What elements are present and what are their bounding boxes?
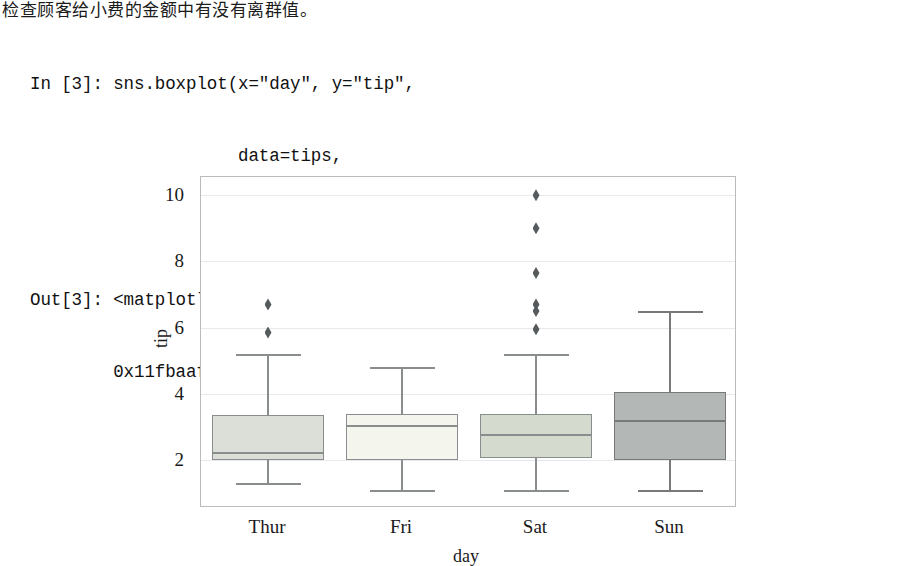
y-tick-label: 2 [144, 450, 184, 469]
boxplot-figure: tip day 246810ThurFriSatSun [192, 176, 740, 566]
outlier-point [533, 267, 540, 279]
whisker-cap [236, 483, 301, 485]
box-sun [614, 392, 726, 460]
whisker-stem [669, 311, 671, 392]
median-line-sat [480, 434, 592, 436]
code-line: data=tips, [30, 144, 914, 168]
whisker-stem [535, 458, 537, 489]
x-tick-label-sun: Sun [609, 516, 729, 538]
outlier-point [533, 189, 540, 201]
whisker-stem [267, 354, 269, 415]
median-line-sun [614, 420, 726, 422]
x-axis-label: day [192, 546, 740, 566]
y-tick-label: 8 [144, 251, 184, 270]
y-tick-label: 6 [144, 318, 184, 337]
gridline [201, 195, 735, 196]
y-tick-label: 10 [144, 185, 184, 204]
whisker-cap [370, 490, 435, 492]
y-tick-label: 4 [144, 384, 184, 403]
caption-chinese: 检查顾客给小费的金额中有没有离群值。 [2, 0, 914, 20]
whisker-stem [401, 460, 403, 490]
x-tick-label-thur: Thur [207, 516, 327, 538]
outlier-point [533, 305, 540, 317]
whisker-cap [638, 311, 703, 313]
box-fri [346, 414, 458, 460]
outlier-point [265, 298, 272, 310]
whisker-cap [236, 354, 301, 356]
code-line: In [3]: sns.boxplot(x="day", y="tip", [30, 72, 914, 96]
whisker-cap [638, 490, 703, 492]
x-tick-label-sat: Sat [475, 516, 595, 538]
whisker-cap [370, 367, 435, 369]
whisker-stem [401, 367, 403, 413]
outlier-point [533, 323, 540, 335]
whisker-cap [504, 354, 569, 356]
gridline [201, 328, 735, 329]
box-sat [480, 414, 592, 459]
gridline [201, 261, 735, 262]
whisker-cap [504, 490, 569, 492]
median-line-thur [212, 452, 324, 454]
whisker-stem [669, 460, 671, 490]
plot-area [200, 176, 736, 507]
whisker-stem [535, 354, 537, 414]
median-line-fri [346, 425, 458, 427]
whisker-stem [267, 460, 269, 483]
outlier-point [533, 222, 540, 234]
x-tick-label-fri: Fri [341, 516, 461, 538]
gridline [201, 460, 735, 461]
